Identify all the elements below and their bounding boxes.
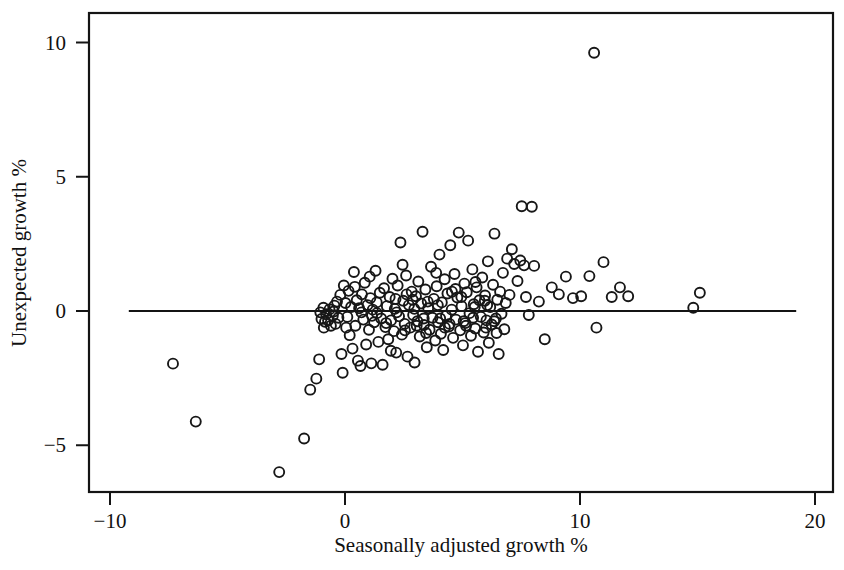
data-point — [430, 336, 440, 346]
figure-container: −1001020 −50510 Seasonally adjusted grow… — [0, 0, 844, 570]
data-point — [502, 254, 512, 264]
data-point — [534, 297, 544, 307]
data-point — [387, 274, 397, 284]
y-tick-label: 10 — [45, 31, 66, 55]
data-point — [366, 358, 376, 368]
y-tick-label: −5 — [44, 433, 66, 457]
scatter-plot: −1001020 −50510 Seasonally adjusted grow… — [0, 0, 844, 570]
data-point — [589, 48, 599, 58]
data-point — [410, 358, 420, 368]
data-point — [348, 344, 358, 354]
data-point — [591, 323, 601, 333]
data-point — [418, 227, 428, 237]
data-point — [507, 244, 517, 254]
data-point — [373, 337, 383, 347]
x-axis-tick-labels: −1001020 — [94, 509, 826, 533]
data-point — [274, 467, 284, 477]
data-point — [599, 257, 609, 267]
x-axis-ticks — [110, 492, 815, 505]
x-axis-title: Seasonally adjusted growth % — [334, 533, 588, 557]
data-point — [314, 354, 324, 364]
x-tick-label: 20 — [805, 509, 826, 533]
data-point — [584, 271, 594, 281]
x-tick-label: 10 — [570, 509, 591, 533]
data-point — [521, 292, 531, 302]
data-point — [361, 340, 371, 350]
data-point — [371, 266, 381, 276]
data-point — [527, 202, 537, 212]
data-point — [305, 385, 315, 395]
data-point — [398, 260, 408, 270]
data-point — [463, 236, 473, 246]
x-tick-label: −10 — [94, 509, 127, 533]
data-point — [473, 347, 483, 357]
data-point — [607, 292, 617, 302]
y-axis-title: Unexpected growth % — [7, 159, 31, 347]
x-tick-label: 0 — [340, 509, 351, 533]
data-point — [299, 434, 309, 444]
data-point — [540, 334, 550, 344]
data-point — [512, 276, 522, 286]
data-point — [498, 268, 508, 278]
data-point — [349, 267, 359, 277]
data-point — [494, 349, 504, 359]
data-point — [191, 417, 201, 427]
data-point — [489, 229, 499, 239]
data-point — [483, 256, 493, 266]
data-point — [484, 338, 494, 348]
data-point — [311, 374, 321, 384]
data-point-group — [168, 48, 705, 477]
data-point — [450, 269, 460, 279]
data-point — [393, 280, 403, 290]
data-point — [423, 297, 433, 307]
data-point — [445, 240, 455, 250]
data-point — [401, 271, 411, 281]
data-point — [623, 291, 633, 301]
y-axis-ticks — [76, 43, 89, 446]
y-axis-tick-labels: −50510 — [44, 31, 66, 458]
data-point — [517, 201, 527, 211]
data-point — [561, 272, 571, 282]
data-point — [554, 289, 564, 299]
data-point — [438, 345, 448, 355]
data-point — [434, 250, 444, 260]
data-point — [615, 282, 625, 292]
data-point — [467, 264, 477, 274]
data-point — [447, 305, 457, 315]
data-point — [529, 261, 539, 271]
data-point — [168, 359, 178, 369]
data-point — [454, 228, 464, 238]
data-point — [420, 285, 430, 295]
data-point — [378, 360, 388, 370]
y-tick-label: 0 — [56, 299, 67, 323]
y-tick-label: 5 — [56, 165, 67, 189]
data-point — [336, 349, 346, 359]
data-point — [695, 288, 705, 298]
data-point — [395, 238, 405, 248]
data-point — [458, 340, 468, 350]
data-point — [338, 368, 348, 378]
